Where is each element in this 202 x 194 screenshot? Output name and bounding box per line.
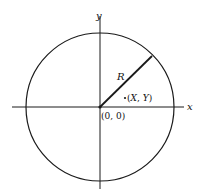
point-xy	[124, 97, 126, 99]
point-label: (X, Y)	[127, 93, 152, 103]
origin-label: (0, 0)	[101, 111, 125, 121]
x-axis-label: x	[187, 101, 193, 112]
circle-diagram: y x R (0, 0) (X, Y)	[0, 0, 202, 194]
radius-label: R	[116, 71, 125, 82]
origin-point	[98, 105, 101, 108]
y-axis-label: y	[95, 10, 102, 21]
point-label-close: )	[149, 93, 153, 103]
